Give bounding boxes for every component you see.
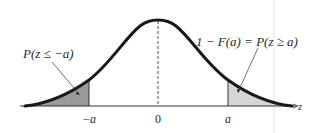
right-tail-label: 1 − F(a) = P(z ≥ a) bbox=[196, 34, 298, 49]
left-tail-label: P(z ≤ −a) bbox=[22, 46, 74, 61]
right-tail-area bbox=[228, 80, 292, 106]
tick-label-neg-a: −a bbox=[82, 112, 96, 126]
left-pointer-line bbox=[52, 62, 79, 94]
left-tail-area bbox=[25, 80, 89, 106]
axis-label-z: z bbox=[297, 101, 302, 112]
tick-label-a: a bbox=[225, 112, 231, 126]
right-pointer-line bbox=[238, 48, 258, 92]
tick-label-zero: 0 bbox=[155, 112, 161, 126]
normal-distribution-diagram: P(z ≤ −a) 1 − F(a) = P(z ≥ a) z −a 0 a bbox=[0, 0, 320, 133]
